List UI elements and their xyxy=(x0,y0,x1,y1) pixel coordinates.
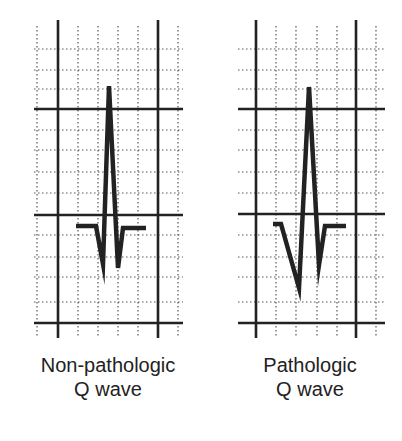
label-pathologic-line1: Pathologic xyxy=(225,353,395,377)
label-pathologic: Pathologic Q wave xyxy=(225,353,395,401)
label-non-pathologic-line2: Q wave xyxy=(12,377,204,401)
label-non-pathologic: Non-pathologic Q wave xyxy=(12,353,204,401)
qrs-waveform-pathologic xyxy=(273,87,346,288)
qrs-waveform-non-pathologic xyxy=(76,86,146,268)
label-non-pathologic-line1: Non-pathologic xyxy=(12,353,204,377)
label-pathologic-line2: Q wave xyxy=(225,377,395,401)
